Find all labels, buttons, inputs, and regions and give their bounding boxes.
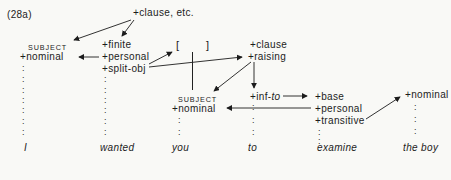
continuation-dots: : <box>104 75 107 84</box>
continuation-dots: : <box>178 116 181 125</box>
inf-to-italic-to: to <box>271 91 280 102</box>
continuation-dots: : <box>22 86 25 95</box>
word-you: you <box>172 143 189 153</box>
feature-raising: +raising <box>248 52 286 62</box>
arrow-splitobj-to-raising <box>149 57 242 67</box>
continuation-dots: : <box>104 106 107 115</box>
arrow-splitobj-to-empty-bracket <box>149 52 172 64</box>
word-to: to <box>248 143 257 153</box>
word-the-boy: the boy <box>403 143 438 153</box>
inf-to-prefix: +inf- <box>250 91 271 102</box>
continuation-dots: : <box>178 128 181 137</box>
feature-nominal-boy: +nominal <box>405 90 449 100</box>
empty-bracket-right: ] <box>206 40 209 50</box>
word-i: I <box>24 143 27 153</box>
feature-personal-examine: +personal <box>315 104 362 114</box>
continuation-dots: : <box>252 103 255 112</box>
continuation-dots: : <box>252 128 255 137</box>
continuation-dots: : <box>104 117 107 126</box>
feature-split-obj: +split-obj <box>102 64 146 74</box>
continuation-dots: : <box>22 106 25 115</box>
figure-28a: (28a) +clause, etc. SUBJECT +finite [ ] … <box>0 0 451 180</box>
empty-node-stem-line <box>192 52 193 90</box>
empty-bracket-left: [ <box>176 40 179 50</box>
continuation-dots: : <box>104 86 107 95</box>
feature-transitive: +transitive <box>315 116 365 126</box>
feature-clause: +clause <box>250 40 287 50</box>
continuation-dots: : <box>22 75 25 84</box>
continuation-dots: : <box>22 96 25 105</box>
continuation-dots: : <box>104 128 107 137</box>
continuation-dots: : <box>414 115 417 124</box>
word-examine: examine <box>317 143 357 153</box>
continuation-dots: : <box>414 127 417 136</box>
continuation-dots: : <box>22 128 25 137</box>
feature-base: +base <box>315 92 344 102</box>
feature-personal-wanted: +personal <box>102 52 149 62</box>
arrow-raising-to-subject-you <box>214 62 251 91</box>
continuation-dots: : <box>252 116 255 125</box>
continuation-dots: : <box>414 103 417 112</box>
feature-nominal-you: +nominal <box>172 104 216 114</box>
example-number: (28a) <box>7 9 32 20</box>
continuation-dots: : <box>104 96 107 105</box>
feature-finite: +finite <box>102 40 131 50</box>
dependency-arrows-layer <box>0 0 451 180</box>
feature-inf-to: +inf-to <box>250 92 281 102</box>
arrow-clause-to-subject-i <box>74 20 131 40</box>
continuation-dots: : <box>22 117 25 126</box>
arrow-transitive-to-nominal-boy <box>366 97 400 119</box>
continuation-dots: : <box>22 64 25 73</box>
word-wanted: wanted <box>100 143 134 153</box>
feature-clause-etc: +clause, etc. <box>133 8 194 18</box>
feature-nominal-i: +nominal <box>20 52 64 62</box>
